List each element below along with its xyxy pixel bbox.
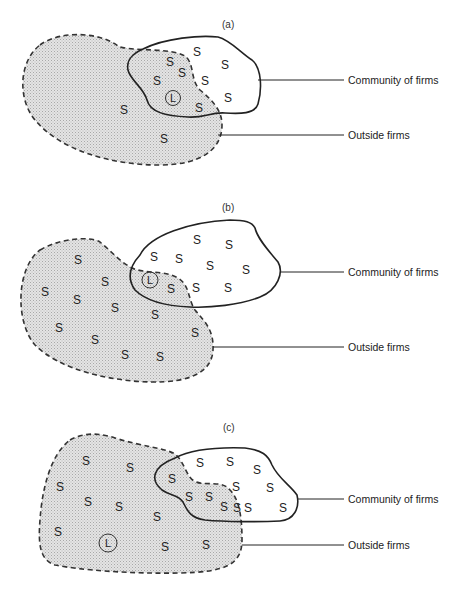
callout-outside-c: Outside firms (348, 539, 410, 551)
supplier-firm-marker: S (279, 501, 287, 515)
supplier-firm-marker: S (233, 501, 241, 515)
panel-b: (b) Community of firms Outside firms SSS… (21, 202, 439, 382)
supplier-firm-marker: S (150, 250, 158, 264)
supplier-firm-marker: S (120, 103, 128, 117)
supplier-firm-marker: S (175, 252, 183, 266)
supplier-firm-marker: S (232, 480, 240, 494)
supplier-firm-marker: S (168, 472, 176, 486)
panel-c: (c) Community of firms Outside firms SSS… (39, 422, 438, 573)
supplier-firm-marker: S (224, 281, 232, 295)
supplier-firm-marker: S (253, 463, 261, 477)
supplier-firm-marker: S (54, 525, 62, 539)
panel-a: (a) Community of firms Outside firms SSS… (23, 19, 439, 165)
supplier-firm-marker: S (244, 501, 252, 515)
supplier-firm-marker: S (84, 495, 92, 509)
lead-firm-letter: L (105, 537, 111, 549)
supplier-firm-marker: S (191, 326, 199, 340)
supplier-firm-marker: S (166, 55, 174, 69)
callout-outside-b: Outside firms (348, 341, 410, 353)
supplier-firm-marker: S (167, 282, 175, 296)
supplier-firm-marker: S (221, 58, 229, 72)
callout-community-b: Community of firms (348, 266, 438, 278)
supplier-firm-marker: S (202, 538, 210, 552)
supplier-firm-marker: S (206, 259, 214, 273)
supplier-firm-marker: S (82, 454, 90, 468)
supplier-firm-marker: S (195, 101, 203, 115)
panel-label-b: (b) (222, 202, 234, 213)
supplier-firm-marker: S (126, 461, 134, 475)
supplier-firm-marker: S (73, 293, 81, 307)
supplier-firm-marker: S (41, 285, 49, 299)
supplier-firm-marker: S (74, 253, 82, 267)
supplier-firm-marker: S (151, 308, 159, 322)
supplier-firm-marker: S (111, 301, 119, 315)
supplier-firm-marker: S (193, 233, 201, 247)
callout-community-c: Community of firms (348, 493, 438, 505)
community-diagram: (a) Community of firms Outside firms SSS… (0, 0, 461, 599)
lead-firm-letter: L (170, 92, 176, 104)
supplier-firm-marker: S (266, 481, 274, 495)
supplier-firm-marker: S (178, 66, 186, 80)
supplier-firm-marker: S (153, 510, 161, 524)
panel-label-c: (c) (223, 422, 235, 433)
supplier-firm-marker: S (192, 281, 200, 295)
supplier-firm-marker: S (101, 275, 109, 289)
supplier-firm-marker: S (156, 350, 164, 364)
supplier-firm-marker: S (153, 74, 161, 88)
lead-firm-letter: L (147, 274, 153, 286)
supplier-firm-marker: S (226, 455, 234, 469)
supplier-firm-marker: S (91, 333, 99, 347)
supplier-firm-marker: S (185, 490, 193, 504)
supplier-firm-marker: S (115, 500, 123, 514)
supplier-firm-marker: S (196, 456, 204, 470)
supplier-firm-marker: S (161, 540, 169, 554)
supplier-firm-marker: S (193, 45, 201, 59)
supplier-firm-marker: S (121, 348, 129, 362)
supplier-firm-marker: S (224, 91, 232, 105)
panel-label-a: (a) (222, 19, 234, 30)
supplier-firm-marker: S (55, 321, 63, 335)
callout-community-a: Community of firms (348, 74, 438, 86)
callout-outside-a: Outside firms (348, 129, 410, 141)
supplier-firm-marker: S (205, 490, 213, 504)
supplier-firm-marker: S (160, 132, 168, 146)
supplier-firm-marker: S (56, 480, 64, 494)
supplier-firm-marker: S (220, 500, 228, 514)
supplier-firm-marker: S (225, 238, 233, 252)
supplier-firm-marker: S (242, 263, 250, 277)
supplier-firm-marker: S (201, 74, 209, 88)
